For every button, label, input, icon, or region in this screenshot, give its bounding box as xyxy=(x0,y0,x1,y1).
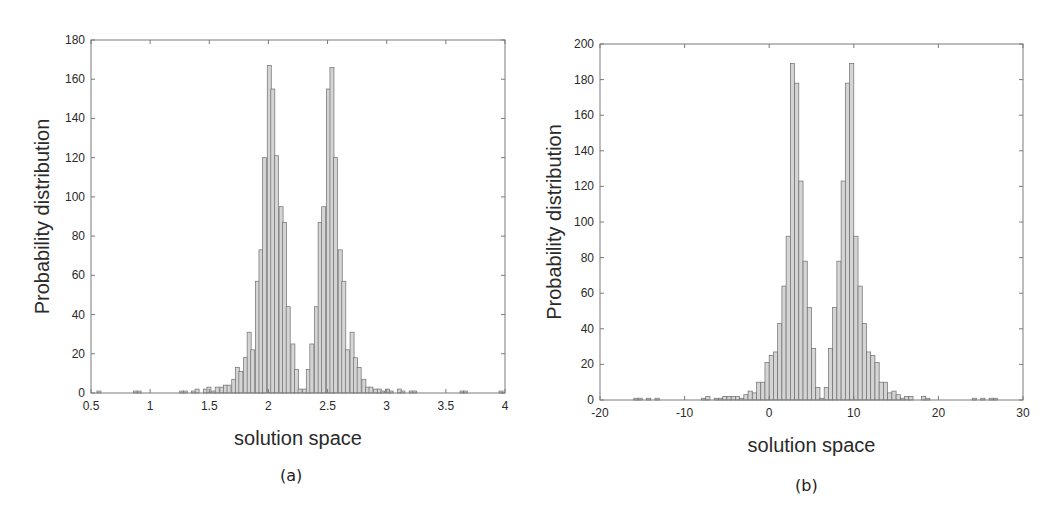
histogram-bar xyxy=(778,323,782,400)
histogram-panel-a: 0204060801001201401601800.511.522.533.54… xyxy=(0,0,530,523)
histogram-bar xyxy=(369,387,373,393)
histogram-bar xyxy=(883,382,887,400)
histogram-bar xyxy=(298,389,302,393)
histogram-bar xyxy=(921,396,925,400)
histogram-bar xyxy=(786,236,790,400)
y-tick-label: 20 xyxy=(72,347,86,361)
histogram-bar xyxy=(731,396,735,400)
x-tick-label: 0 xyxy=(766,406,773,420)
x-tick-label: 1.5 xyxy=(201,399,218,413)
histogram-bar xyxy=(812,348,816,400)
histogram-bar xyxy=(706,396,710,400)
x-tick-label: 2.5 xyxy=(319,399,336,413)
histogram-bar xyxy=(752,393,756,400)
histogram-bar xyxy=(845,83,849,400)
x-tick-label: 0.5 xyxy=(83,399,100,413)
histogram-bar xyxy=(333,158,337,393)
histogram-bar xyxy=(850,64,854,400)
histogram-bar xyxy=(286,307,290,393)
y-axis-label: Probability distribution xyxy=(543,124,565,320)
histogram-panel-b: 020406080100120140160180200-20-100102030… xyxy=(530,0,1057,523)
y-tick-label: 60 xyxy=(72,268,86,282)
histogram-bar xyxy=(862,323,866,400)
histogram-bar xyxy=(833,307,837,400)
y-tick-label: 0 xyxy=(78,386,85,400)
x-tick-label: -10 xyxy=(676,406,694,420)
x-tick-label: 3.5 xyxy=(438,399,455,413)
y-tick-label: 160 xyxy=(65,72,85,86)
histogram-bar xyxy=(727,396,731,400)
histogram-bar xyxy=(866,352,870,400)
histogram-bar xyxy=(909,396,913,400)
y-tick-label: 180 xyxy=(65,33,85,47)
histogram-bar xyxy=(905,396,909,400)
y-tick-label: 180 xyxy=(574,73,594,87)
histogram-bar xyxy=(871,356,875,401)
histogram-bar xyxy=(858,286,862,400)
histogram-bar xyxy=(799,181,803,400)
histogram-bar xyxy=(761,382,765,400)
histogram-bar xyxy=(837,261,841,400)
x-tick-label: 3 xyxy=(383,399,390,413)
y-tick-label: 20 xyxy=(581,357,595,371)
histogram-bar xyxy=(769,356,773,401)
histogram-bar xyxy=(892,391,896,400)
histogram-bar xyxy=(807,307,811,400)
histogram-bar xyxy=(227,385,231,393)
histogram-bar xyxy=(879,382,883,400)
y-tick-label: 80 xyxy=(72,229,86,243)
histogram-bar xyxy=(841,181,845,400)
y-tick-label: 0 xyxy=(587,393,594,407)
histogram-bar xyxy=(735,396,739,400)
x-axis-label: solution space xyxy=(234,427,362,449)
y-tick-label: 100 xyxy=(574,215,594,229)
histogram-bar xyxy=(345,350,349,393)
histogram-bar xyxy=(723,396,727,400)
y-tick-label: 40 xyxy=(72,308,86,322)
histogram-bar xyxy=(888,393,892,400)
y-tick-label: 80 xyxy=(581,251,595,265)
x-axis-label: solution space xyxy=(748,434,876,456)
histogram-bar xyxy=(310,344,314,393)
y-tick-label: 160 xyxy=(574,108,594,122)
histogram-bar xyxy=(896,395,900,400)
histogram-bar xyxy=(251,350,255,393)
x-tick-label: -20 xyxy=(591,406,609,420)
histogram-bar xyxy=(782,286,786,400)
y-tick-label: 100 xyxy=(65,190,85,204)
histogram-bar xyxy=(215,387,219,393)
plot-frame xyxy=(91,40,505,393)
y-tick-label: 200 xyxy=(574,37,594,51)
histogram-bars xyxy=(97,65,503,393)
caption-a: (a) xyxy=(280,466,302,485)
x-tick-label: 4 xyxy=(502,399,509,413)
histogram-bar xyxy=(757,382,761,400)
histogram-chart-a: 0204060801001201401601800.511.522.533.54… xyxy=(0,0,530,523)
histogram-bar xyxy=(828,348,832,400)
histogram-bar xyxy=(795,83,799,400)
histogram-bar xyxy=(824,388,828,400)
y-tick-label: 120 xyxy=(65,151,85,165)
caption-b: (b) xyxy=(795,476,818,495)
histogram-bar xyxy=(765,363,769,400)
y-tick-label: 40 xyxy=(581,322,595,336)
histogram-bar xyxy=(357,368,361,393)
x-tick-label: 2 xyxy=(265,399,272,413)
y-tick-label: 60 xyxy=(581,286,595,300)
histogram-bar xyxy=(239,371,243,393)
histogram-bar xyxy=(773,352,777,400)
histogram-bar xyxy=(790,64,794,400)
histogram-bar xyxy=(322,207,326,393)
histogram-bar xyxy=(263,158,267,393)
x-tick-label: 10 xyxy=(847,406,861,420)
histogram-chart-b: 020406080100120140160180200-20-100102030… xyxy=(530,0,1057,523)
histogram-bar xyxy=(854,236,858,400)
y-axis-label: Probability distribution xyxy=(31,119,53,315)
x-tick-label: 1 xyxy=(147,399,154,413)
histogram-bar xyxy=(875,363,879,400)
histogram-bar xyxy=(803,261,807,400)
histogram-bar xyxy=(748,391,752,400)
histogram-bar xyxy=(274,156,278,393)
histogram-bar xyxy=(195,389,199,393)
histogram-bars xyxy=(634,64,998,400)
